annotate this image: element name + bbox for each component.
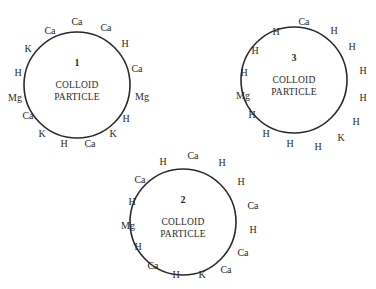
particle-label-line2: PARTICLE [160,229,206,239]
adsorbed-ion-h: H [121,38,128,49]
adsorbed-ion-ca: Ca [220,264,232,275]
particle-label-line2: PARTICLE [271,87,317,97]
colloid-particle-1: 1COLLOIDPARTICLECaCaHCaMgHKCaHKCaMgHKCa [8,16,149,149]
colloid-diagram: 1COLLOIDPARTICLECaCaHCaMgHKCaHKCaMgHKCa3… [0,0,376,289]
adsorbed-ion-h: H [330,25,337,36]
adsorbed-ion-ca: Ca [247,200,259,211]
adsorbed-ion-ca: Ca [298,16,310,27]
adsorbed-ion-ca: Ca [147,260,159,271]
adsorbed-ion-ca: Ca [22,110,34,121]
adsorbed-ion-h: H [240,67,247,78]
adsorbed-ion-h: H [359,65,366,76]
adsorbed-ion-k: K [337,132,345,143]
adsorbed-ion-mg: Mg [236,90,250,101]
adsorbed-ion-h: H [14,67,21,78]
adsorbed-ion-h: H [248,109,255,120]
adsorbed-ion-h: H [134,241,141,252]
adsorbed-ion-ca: Ca [131,63,143,74]
adsorbed-ion-ca: Ca [237,247,249,258]
particle-number: 1 [75,57,80,68]
adsorbed-ion-mg: Mg [121,220,135,231]
adsorbed-ion-h: H [249,224,256,235]
particle-label-line1: COLLOID [272,75,315,85]
colloid-particle-3: 3COLLOIDPARTICLECaHHHHHKHHHHMgHHH [236,16,367,152]
adsorbed-ion-k: K [38,128,46,139]
adsorbed-ion-h: H [128,196,135,207]
adsorbed-ion-h: H [272,26,279,37]
adsorbed-ion-ca: Ca [44,25,56,36]
adsorbed-ion-h: H [218,157,225,168]
adsorbed-ion-ca: Ca [100,22,112,33]
adsorbed-ion-k: K [109,128,117,139]
particle-label-line1: COLLOID [55,80,98,90]
adsorbed-ion-h: H [314,141,321,152]
colloid-particle-2: 2COLLOIDPARTICLECaHHCaHCaCaKHCaHMgHCaH [121,150,259,280]
adsorbed-ion-k: K [24,43,32,54]
adsorbed-ion-h: H [159,156,166,167]
adsorbed-ion-h: H [237,176,244,187]
adsorbed-ion-h: H [172,269,179,280]
adsorbed-ion-h: H [122,113,129,124]
particle-label-line1: COLLOID [161,217,204,227]
adsorbed-ion-ca: Ca [187,150,199,161]
particle-number: 3 [292,52,297,63]
adsorbed-ion-mg: Mg [135,91,149,102]
adsorbed-ion-k: K [198,269,206,280]
adsorbed-ion-h: H [286,138,293,149]
adsorbed-ion-h: H [359,92,366,103]
adsorbed-ion-mg: Mg [8,92,22,103]
adsorbed-ion-ca: Ca [134,174,146,185]
particle-label-line2: PARTICLE [54,92,100,102]
adsorbed-ion-h: H [348,41,355,52]
particle-number: 2 [181,194,186,205]
adsorbed-ion-h: H [262,128,269,139]
adsorbed-ion-h: H [352,116,359,127]
adsorbed-ion-ca: Ca [71,16,83,27]
adsorbed-ion-h: H [60,138,67,149]
adsorbed-ion-h: H [251,45,258,56]
adsorbed-ion-ca: Ca [84,138,96,149]
